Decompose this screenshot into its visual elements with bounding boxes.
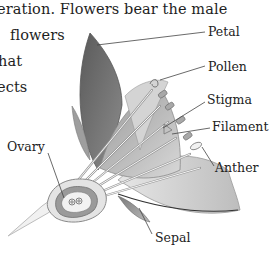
anther-ring <box>189 141 202 152</box>
label-anther: Anther <box>215 160 259 175</box>
label-stigma: Stigma <box>207 92 252 107</box>
label-petal: Petal <box>208 24 240 39</box>
sepal <box>118 196 150 222</box>
label-pollen: Pollen <box>208 59 247 74</box>
label-ovary: Ovary <box>7 139 45 154</box>
label-sepal: Sepal <box>155 230 190 245</box>
label-filament: Filament <box>212 119 268 134</box>
